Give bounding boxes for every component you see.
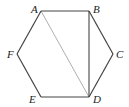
vertex-label-e: E (28, 93, 36, 105)
vertex-label-f: F (6, 48, 14, 60)
hexagon-diagram: ABCDEF (0, 0, 129, 107)
edge-EF (17, 54, 41, 97)
edge-BC (89, 11, 113, 54)
hexagon-figure: ABCDEF (0, 0, 129, 107)
edge-FA (17, 11, 41, 54)
edge-CD (89, 54, 113, 97)
vertex-label-c: C (116, 48, 124, 60)
diagonal-AD (41, 11, 89, 97)
vertex-label-d: D (92, 93, 101, 105)
vertex-label-a: A (30, 3, 38, 15)
vertex-label-b: B (93, 3, 100, 15)
